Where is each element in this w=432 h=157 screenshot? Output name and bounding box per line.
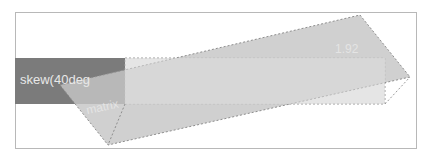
overlap-band — [125, 58, 385, 104]
ghost-label-upper: 1.92 — [335, 42, 358, 56]
skew-label: skew(40deg — [20, 72, 90, 87]
